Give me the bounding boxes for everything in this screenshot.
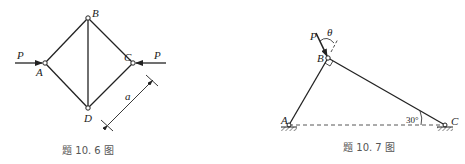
member-da [45, 63, 88, 108]
member-ab [289, 58, 328, 125]
node-label-b: B [317, 52, 324, 64]
member-ab [45, 18, 88, 63]
ground-hatch-a-icon [281, 127, 297, 131]
node-label-c: C [451, 115, 459, 127]
load-label-p: P [309, 30, 317, 42]
node-label-c: C [124, 51, 132, 63]
caption-10-6: 题 10. 6 图 [62, 145, 114, 156]
ground-hatch-c-icon [437, 127, 453, 131]
member-bc [328, 58, 445, 125]
frame-figure-10-7: P θ B A C 30° 题 10. 7 图 [280, 26, 459, 153]
load-label-left: P [16, 49, 24, 61]
joint-d-icon [86, 106, 90, 110]
truss-members [45, 18, 133, 108]
joint-b-icon [86, 16, 90, 20]
node-label-b: B [92, 7, 99, 19]
angle-label-theta: θ [327, 26, 333, 38]
load-label-right: P [153, 49, 161, 61]
node-label-d: D [83, 112, 92, 124]
truss-joints [43, 16, 135, 110]
angle-label-30: 30° [406, 115, 419, 125]
dimension-label-a: a [125, 90, 131, 102]
figure-canvas: P P A B C D a 题 10. 6 图 [0, 0, 465, 164]
joint-b-icon [326, 56, 330, 60]
node-label-a: A [35, 66, 43, 78]
node-label-a: A [280, 114, 288, 126]
angle-30-arc-icon [420, 111, 422, 125]
truss-figure-10-6: P P A B C D a 题 10. 6 图 [15, 7, 166, 156]
joint-c-icon [131, 61, 135, 65]
theta-arc-icon [320, 38, 334, 43]
caption-10-7: 题 10. 7 图 [343, 142, 395, 153]
joint-a-icon [43, 61, 47, 65]
dimension-line [101, 75, 158, 131]
support-c-pin-icon [443, 123, 447, 127]
